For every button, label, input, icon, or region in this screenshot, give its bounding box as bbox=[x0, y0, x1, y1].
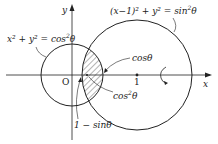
tick-one-label: 1 bbox=[134, 77, 140, 87]
x-axis: x bbox=[6, 73, 212, 90]
svg-text:cos2θ: cos2θ bbox=[113, 89, 138, 101]
y-axis: y bbox=[61, 4, 75, 140]
svg-text:x² + y² = cos2θ: x² + y² = cos2θ bbox=[7, 32, 76, 44]
large-circle-equation: (x−1)² + y² = sin2θ bbox=[110, 4, 197, 32]
cos-theta-annotation: cosθ bbox=[104, 53, 153, 73]
one-minus-sin-theta-label: 1 − sinθ bbox=[74, 120, 112, 130]
cos-theta-label: cosθ bbox=[132, 53, 153, 63]
y-axis-label: y bbox=[61, 5, 68, 15]
diagram: x y O 1 x² + y² = cos2θ bbox=[0, 0, 218, 144]
svg-text:(x−1)² + y² = sin2θ: (x−1)² + y² = sin2θ bbox=[110, 4, 197, 16]
x-axis-label: x bbox=[203, 79, 208, 89]
rotation-arrow-icon bbox=[161, 67, 168, 85]
tick-one: 1 bbox=[134, 74, 140, 87]
origin-label: O bbox=[62, 77, 69, 87]
intersection-point bbox=[86, 74, 88, 76]
